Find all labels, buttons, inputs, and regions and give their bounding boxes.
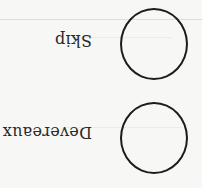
ballot-option-skip[interactable]: Skip bbox=[0, 0, 202, 94]
option-label: Devereaux bbox=[3, 123, 93, 142]
ballot-page: Devereaux Skip bbox=[0, 0, 202, 188]
ballot-option-devereaux[interactable]: Devereaux bbox=[0, 94, 202, 188]
option-label: Skip bbox=[55, 31, 92, 50]
empty-oval-icon[interactable] bbox=[120, 102, 188, 174]
empty-oval-icon[interactable] bbox=[120, 8, 188, 80]
